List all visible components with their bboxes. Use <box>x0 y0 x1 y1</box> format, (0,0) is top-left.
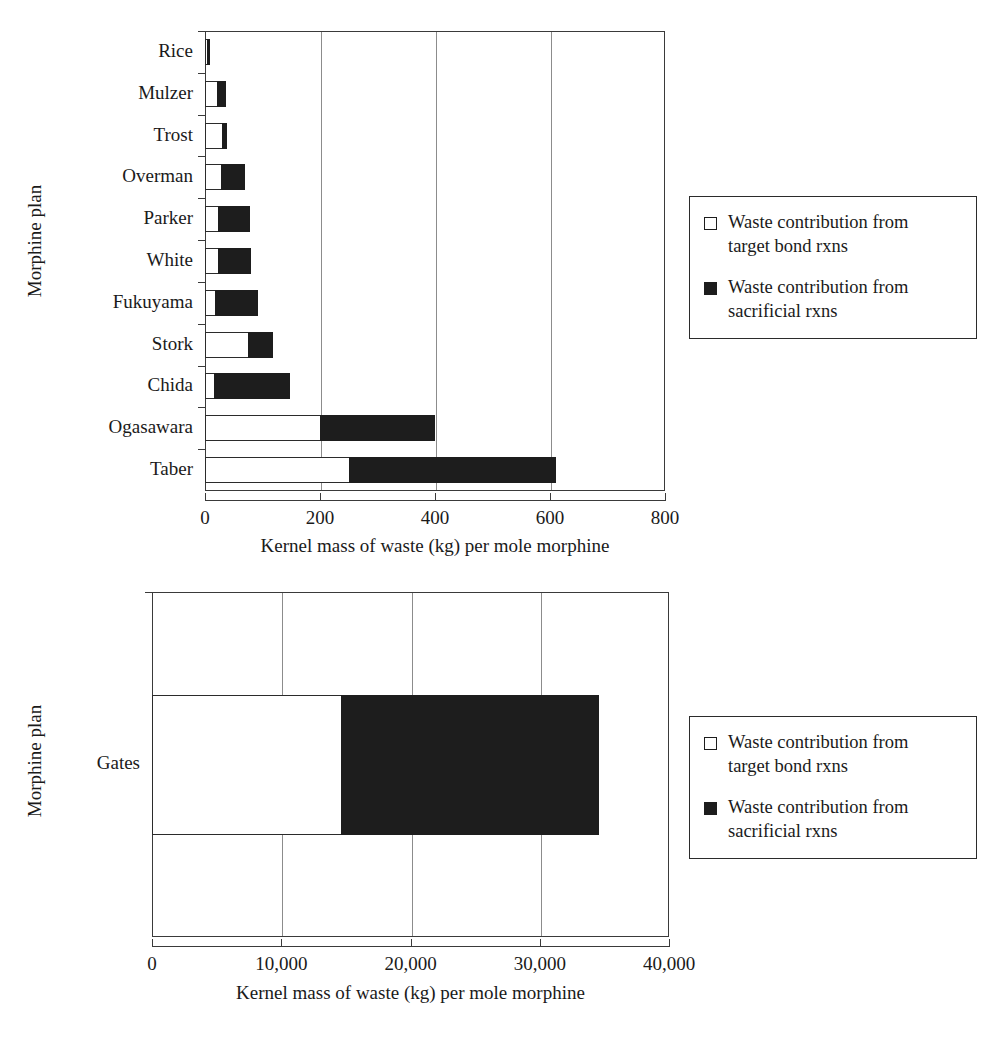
gridline <box>436 32 437 490</box>
x-axis-tick-label: 200 <box>306 507 335 529</box>
gridline <box>551 32 552 490</box>
bar-segment-sacrificial <box>218 206 250 232</box>
filled-square-icon <box>704 802 717 815</box>
y-axis-label-taber: Taber <box>150 459 193 478</box>
legend-label-sacrificial: Waste contribution from sacrificial rxns <box>728 276 943 323</box>
legend-item-target-bond: Waste contribution from target bond rxns <box>704 211 960 258</box>
bar-taber <box>205 457 556 483</box>
bottom-chart-y-axis-title: Morphine plan <box>24 681 46 841</box>
x-axis-tick <box>205 493 206 501</box>
y-axis-tick <box>198 282 205 283</box>
bar-segment-target-bond <box>205 332 248 358</box>
x-axis-tick-label: 40,000 <box>643 953 695 975</box>
bar-segment-target-bond <box>205 373 214 399</box>
bar-segment-sacrificial <box>341 695 600 835</box>
legend-item-sacrificial: Waste contribution from sacrificial rxns <box>704 796 960 843</box>
open-square-icon <box>704 217 717 230</box>
bar-trost <box>205 123 227 149</box>
y-axis-tick <box>198 240 205 241</box>
top-chart-y-axis-title: Morphine plan <box>24 161 46 321</box>
x-axis-tick-label: 30,000 <box>514 953 566 975</box>
bar-segment-sacrificial <box>221 164 245 190</box>
bar-segment-sacrificial <box>349 457 556 483</box>
legend-label-target-bond: Waste contribution from target bond rxns <box>728 731 943 778</box>
bar-segment-target-bond <box>152 695 341 835</box>
bar-stork <box>205 332 273 358</box>
y-axis-label-rice: Rice <box>158 41 193 60</box>
y-axis-tick <box>198 31 205 32</box>
x-axis-tick <box>435 493 436 501</box>
bar-white <box>205 248 251 274</box>
y-axis-tick <box>198 73 205 74</box>
top-chart-legend: Waste contribution from target bond rxns… <box>689 196 977 339</box>
bar-segment-target-bond <box>205 206 218 232</box>
x-axis-tick <box>320 493 321 501</box>
legend-item-target-bond: Waste contribution from target bond rxns <box>704 731 960 778</box>
bar-segment-target-bond <box>205 290 215 316</box>
x-axis-tick <box>540 939 541 947</box>
bottom-chart-x-axis-title: Kernel mass of waste (kg) per mole morph… <box>152 982 669 1004</box>
bar-fukuyama <box>205 290 258 316</box>
x-axis-tick-label: 10,000 <box>255 953 307 975</box>
bar-segment-sacrificial <box>215 290 258 316</box>
top-chart-x-axis-title: Kernel mass of waste (kg) per mole morph… <box>205 535 665 557</box>
bar-chida <box>205 373 290 399</box>
x-axis-tick-label: 0 <box>200 507 210 529</box>
bar-segment-sacrificial <box>248 332 273 358</box>
y-axis-label-ogasawara: Ogasawara <box>109 417 193 436</box>
y-axis-label-fukuyama: Fukuyama <box>113 292 193 311</box>
bar-overman <box>205 164 245 190</box>
bar-segment-target-bond <box>205 123 222 149</box>
legend-label-target-bond: Waste contribution from target bond rxns <box>728 211 943 258</box>
bar-segment-target-bond <box>205 81 217 107</box>
x-axis-tick-label: 20,000 <box>384 953 436 975</box>
open-square-icon <box>704 737 717 750</box>
x-axis-tick <box>281 939 282 947</box>
bar-ogasawara <box>205 415 435 441</box>
bar-segment-target-bond <box>205 457 349 483</box>
x-axis-tick <box>550 493 551 501</box>
y-axis-label-stork: Stork <box>152 334 193 353</box>
bar-segment-target-bond <box>205 164 221 190</box>
bottom-chart: Morphine plan Kernel mass of waste (kg) … <box>0 570 990 1054</box>
y-axis-label-overman: Overman <box>122 166 193 185</box>
x-axis-tick <box>665 493 666 501</box>
x-axis-tick-label: 800 <box>651 507 680 529</box>
legend-item-sacrificial: Waste contribution from sacrificial rxns <box>704 276 960 323</box>
x-axis-tick <box>669 939 670 947</box>
bar-segment-sacrificial <box>218 248 251 274</box>
y-axis-label-chida: Chida <box>148 375 193 394</box>
bar-segment-target-bond <box>205 248 218 274</box>
y-axis-tick <box>198 324 205 325</box>
bar-segment-sacrificial <box>217 81 227 107</box>
bar-gates <box>152 695 599 835</box>
y-axis-label-mulzer: Mulzer <box>138 83 193 102</box>
y-axis-tick <box>198 115 205 116</box>
y-axis-label-white: White <box>147 250 193 269</box>
y-axis-label-trost: Trost <box>154 125 193 144</box>
bar-segment-sacrificial <box>214 373 290 399</box>
y-axis-tick <box>145 592 152 593</box>
bar-segment-sacrificial <box>207 39 210 65</box>
bottom-chart-legend: Waste contribution from target bond rxns… <box>689 716 977 859</box>
x-axis-tick-label: 400 <box>421 507 450 529</box>
bar-segment-sacrificial <box>320 415 435 441</box>
filled-square-icon <box>704 282 717 295</box>
x-axis-tick <box>152 939 153 947</box>
top-chart: Morphine plan Kernel mass of waste (kg) … <box>0 0 990 570</box>
y-axis-tick <box>198 366 205 367</box>
x-axis-tick-label: 600 <box>536 507 565 529</box>
bar-rice <box>205 39 210 65</box>
bar-mulzer <box>205 81 226 107</box>
y-axis-tick <box>198 156 205 157</box>
y-axis-tick <box>198 449 205 450</box>
x-axis-tick <box>411 939 412 947</box>
bar-segment-sacrificial <box>222 123 227 149</box>
y-axis-label-parker: Parker <box>143 208 193 227</box>
y-axis-tick <box>198 198 205 199</box>
legend-label-sacrificial: Waste contribution from sacrificial rxns <box>728 796 943 843</box>
bar-segment-target-bond <box>205 415 320 441</box>
y-axis-label-gates: Gates <box>97 753 140 772</box>
x-axis-tick-label: 0 <box>147 953 157 975</box>
y-axis-tick <box>198 407 205 408</box>
